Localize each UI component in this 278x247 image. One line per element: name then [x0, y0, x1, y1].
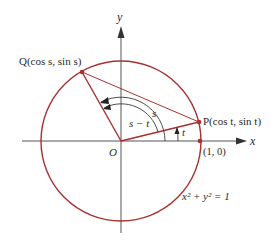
angle-s-minus-t-label: s − t: [129, 117, 150, 129]
point-unit-label: (1, 0): [203, 146, 226, 158]
point-p: [197, 120, 202, 125]
arc-s-arrow-icon: [100, 97, 109, 104]
point-unit: [198, 139, 203, 144]
radius-oq: [82, 72, 121, 141]
point-q-label: Q(cos s, sin s): [19, 55, 82, 68]
x-axis-label: x: [249, 134, 256, 148]
unit-circle-diagram: y x O Q(cos s, sin s) P(cos t, sin t) (1…: [0, 0, 278, 247]
angle-t-label: t: [182, 126, 186, 138]
chord-pq: [82, 72, 199, 122]
y-axis-label: y: [116, 10, 123, 24]
x-axis-arrow-icon: [236, 138, 247, 145]
arc-s-minus-t-arrow-icon: [103, 104, 111, 110]
origin-label: O: [109, 146, 117, 158]
point-q: [80, 70, 85, 75]
circle-equation: x² + y² = 1: [181, 190, 230, 202]
y-axis-arrow-icon: [118, 26, 125, 38]
angle-s-label: s: [152, 107, 156, 119]
point-p-label: P(cos t, sin t): [203, 115, 261, 128]
